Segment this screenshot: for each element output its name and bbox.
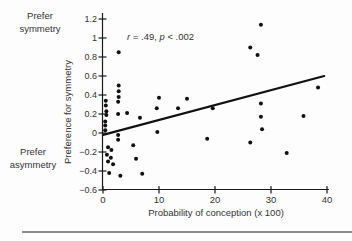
data-point: [138, 116, 142, 120]
x-tick-label: 40: [315, 194, 339, 205]
data-point: [155, 130, 159, 134]
data-point: [104, 109, 108, 113]
scatter-plot-figure: Prefer symmetry Prefer asymmetry Prefere…: [0, 0, 352, 241]
data-point: [157, 96, 161, 100]
data-point: [109, 148, 113, 152]
data-point: [103, 120, 107, 124]
prefer-asymmetry-line2: asymmetry: [1, 159, 65, 172]
data-point: [285, 151, 289, 155]
data-point: [248, 141, 252, 145]
data-point: [259, 102, 263, 106]
y-tick-label: −0.4: [64, 166, 97, 177]
data-point: [103, 128, 107, 132]
data-point: [259, 23, 263, 27]
regression-line: [103, 76, 324, 135]
y-tick-label: 1: [64, 33, 97, 44]
data-point: [176, 106, 180, 110]
data-point: [106, 160, 110, 164]
data-point: [211, 106, 215, 110]
data-point: [118, 174, 122, 178]
data-point: [316, 85, 320, 89]
data-point: [109, 156, 113, 160]
x-axis-title: Probability of conception (x 100): [103, 207, 329, 218]
x-tick-label: 10: [147, 194, 171, 205]
p-value: < .002: [165, 31, 194, 42]
data-point: [260, 127, 264, 131]
data-point: [116, 138, 120, 142]
prefer-asymmetry-label: Prefer asymmetry: [1, 146, 65, 171]
data-point: [116, 100, 120, 104]
data-point: [103, 123, 107, 127]
y-tick-label: 0.6: [64, 71, 97, 82]
data-point: [117, 89, 121, 93]
data-point: [155, 106, 159, 110]
data-point: [248, 46, 252, 50]
data-point: [111, 162, 115, 166]
data-point: [185, 97, 189, 101]
y-tick-label: 0.2: [64, 109, 97, 120]
data-point: [134, 157, 138, 161]
y-tick-label: 1.2: [64, 14, 97, 25]
data-point: [104, 113, 108, 117]
y-tick-label: 0.4: [64, 90, 97, 101]
data-point: [117, 50, 121, 54]
x-tick-label: 30: [259, 194, 283, 205]
prefer-asymmetry-line1: Prefer: [1, 146, 65, 159]
data-point: [116, 133, 120, 137]
data-point: [117, 84, 121, 88]
data-point: [117, 95, 121, 99]
data-point: [205, 137, 209, 141]
data-point: [104, 103, 108, 107]
data-point: [105, 153, 109, 157]
x-tick-label: 0: [91, 194, 115, 205]
y-tick-label: −0.2: [64, 147, 97, 158]
data-point: [107, 171, 111, 175]
data-point: [104, 99, 108, 103]
data-point: [259, 115, 263, 119]
y-tick-label: 0: [64, 128, 97, 139]
data-point: [140, 172, 144, 176]
prefer-symmetry-line1: Prefer: [8, 10, 72, 23]
correlation-annotation: r = .49, p < .002: [127, 31, 194, 42]
r-value: = .49,: [130, 31, 159, 42]
y-tick-label: 0.8: [64, 52, 97, 63]
data-point: [125, 111, 129, 115]
data-point: [301, 114, 305, 118]
data-point: [106, 145, 110, 149]
figure-divider-rule: [22, 231, 352, 233]
x-tick-label: 20: [203, 194, 227, 205]
data-point: [131, 143, 135, 147]
data-point: [116, 112, 120, 116]
data-point: [256, 53, 260, 57]
